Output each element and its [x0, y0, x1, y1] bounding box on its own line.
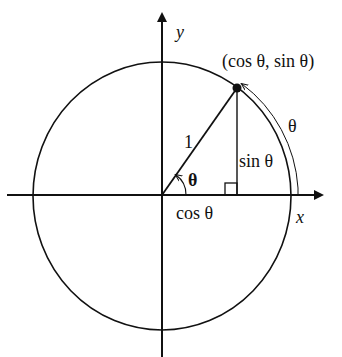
- y-axis-label: y: [174, 22, 184, 42]
- radius-label: 1: [184, 132, 193, 152]
- arc-label: θ: [288, 116, 297, 136]
- x-axis-label: x: [295, 207, 304, 227]
- angle-arc: [176, 175, 186, 195]
- angle-label: θ: [188, 170, 197, 190]
- radius-line: [162, 88, 237, 195]
- cosine-label: cos θ: [176, 203, 213, 223]
- point-label: (cos θ, sin θ): [222, 51, 314, 72]
- point-on-circle: [233, 84, 242, 93]
- unit-circle-diagram: y x (cos θ, sin θ) 1 θ θ sin θ cos θ: [0, 0, 342, 357]
- right-angle-marker: [225, 183, 237, 195]
- sine-label: sin θ: [239, 151, 273, 171]
